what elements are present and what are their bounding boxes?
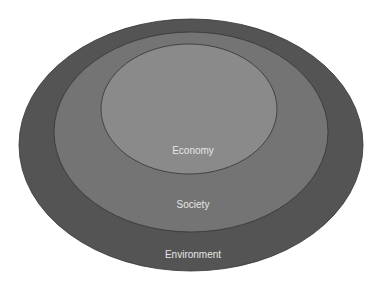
nested-ellipses: Economy Society Environment [0,0,379,283]
economy-label: Economy [172,145,214,156]
sustainability-diagram: Economy Society Environment [0,0,379,283]
society-label: Society [177,199,210,210]
environment-label: Environment [165,249,221,260]
